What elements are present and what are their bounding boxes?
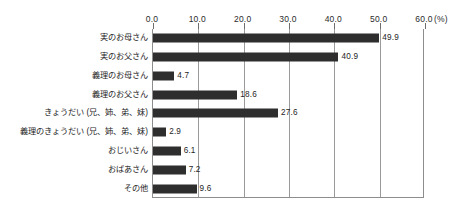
category-label: 実のお母さん [100, 33, 148, 43]
bar [153, 109, 278, 118]
bar-row: おばあさん7.2 [0, 160, 456, 179]
x-axis-tick-label: 60.0 [415, 14, 432, 25]
bar-row: 義理のきょうだい (兄、姉、弟、妹)2.9 [0, 123, 456, 142]
category-label: その他 [124, 184, 148, 194]
bar [153, 147, 181, 156]
bar [153, 90, 237, 99]
category-label: 義理のきょうだい (兄、姉、弟、妹) [20, 127, 148, 137]
bar-row: 義理のお母さん4.7 [0, 67, 456, 86]
bar-value-label: 49.9 [382, 33, 399, 43]
category-label: 義理のお母さん [92, 71, 148, 81]
bar-value-label: 9.6 [200, 184, 212, 194]
bar-value-label: 27.6 [281, 108, 298, 118]
bar [153, 128, 166, 137]
bar-value-label: 6.1 [184, 146, 196, 156]
bar-row: その他9.6 [0, 179, 456, 198]
horizontal-bar-chart: 0.010.020.030.040.050.060.0(%) 実のお母さん49.… [0, 0, 456, 213]
category-label: 義理のお父さん [92, 90, 148, 100]
bar-row: おじいさん6.1 [0, 142, 456, 161]
x-axis-tick-label: 30.0 [279, 14, 296, 25]
category-label: 実のお父さん [100, 52, 148, 62]
x-axis-tick-label: 20.0 [234, 14, 251, 25]
bar-row: きょうだい (兄、姉、弟、妹)27.6 [0, 104, 456, 123]
category-label: おばあさん [108, 165, 148, 175]
bar-value-label: 7.2 [189, 165, 201, 175]
bar-value-label: 4.7 [177, 71, 189, 81]
bar [153, 165, 186, 174]
bar-value-label: 2.9 [169, 127, 181, 137]
x-axis-tick-label: 40.0 [325, 14, 342, 25]
bar-value-label: 18.6 [240, 90, 257, 100]
bar [153, 71, 174, 80]
category-label: きょうだい (兄、姉、弟、妹) [44, 108, 148, 118]
bar [153, 53, 338, 62]
bar-row: 実のお父さん40.9 [0, 48, 456, 67]
bar-rows-container: 実のお母さん49.9実のお父さん40.9義理のお母さん4.7義理のお父さん18.… [0, 29, 456, 198]
x-axis-tick-label: 50.0 [370, 14, 387, 25]
x-axis-tick-labels: 0.010.020.030.040.050.060.0(%) [0, 14, 456, 28]
x-axis-unit-label: (%) [434, 14, 448, 25]
x-axis-tick-label: 0.0 [146, 14, 158, 25]
bar [153, 184, 197, 193]
bar-row: 実のお母さん49.9 [0, 29, 456, 48]
x-axis-tick-label: 10.0 [189, 14, 206, 25]
bar-value-label: 40.9 [341, 52, 358, 62]
bar [153, 34, 379, 43]
category-label: おじいさん [108, 146, 148, 156]
bar-row: 義理のお父さん18.6 [0, 85, 456, 104]
